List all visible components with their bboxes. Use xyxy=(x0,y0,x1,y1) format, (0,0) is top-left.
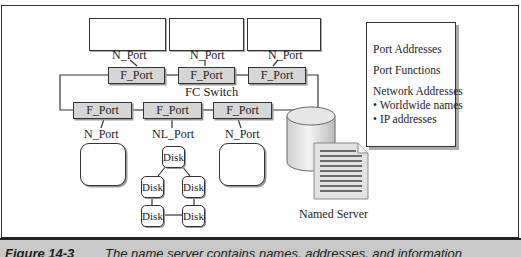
disk-top: Disk xyxy=(162,146,185,168)
f-port-bottom-2: F_Port xyxy=(143,102,202,119)
info-port-functions: Port Functions xyxy=(373,64,440,76)
bullet-ip-addresses: • IP addresses xyxy=(373,113,437,125)
bullet-icon: • xyxy=(373,99,380,111)
f-port-bottom-1: F_Port xyxy=(73,102,132,119)
info-box: Port Addresses Port Functions Network Ad… xyxy=(366,22,456,147)
n-port-label-top-1: N_Port xyxy=(112,48,147,63)
n-port-label-top-2: N_Port xyxy=(190,48,225,63)
info-port-addresses: Port Addresses xyxy=(373,43,442,55)
named-server-label: Named Server xyxy=(299,207,368,222)
nl-port-label: NL_Port xyxy=(152,127,194,142)
bullet-worldwide-names: • Worldwide names xyxy=(373,99,463,111)
disk-bottom-right: Disk xyxy=(182,205,205,227)
info-network-addresses: Network Addresses xyxy=(373,85,463,97)
n-port-label-top-3: N_Port xyxy=(268,48,303,63)
f-port-bottom-3: F_Port xyxy=(213,102,272,119)
disk-mid-left: Disk xyxy=(141,176,164,198)
figure-number: Figure 14-3 xyxy=(5,245,74,257)
fc-switch-label: FC Switch xyxy=(185,85,238,100)
f-port-top-3: F_Port xyxy=(248,67,306,84)
host-node-2 xyxy=(169,18,244,51)
bullet-text: IP addresses xyxy=(380,113,437,125)
figure-caption: Figure 14-3 The name server contains nam… xyxy=(0,238,521,257)
node-device-3 xyxy=(219,143,265,186)
f-port-top-1: F_Port xyxy=(108,67,165,84)
n-port-label-bottom-1: N_Port xyxy=(84,127,119,142)
disk-bottom-left: Disk xyxy=(141,205,164,227)
host-node-1 xyxy=(89,18,166,51)
disk-mid-right: Disk xyxy=(182,176,205,198)
bullet-text: Worldwide names xyxy=(380,99,463,111)
f-port-top-2: F_Port xyxy=(178,67,235,84)
caption-text: The name server contains names, addresse… xyxy=(105,245,462,257)
node-device-1 xyxy=(80,143,126,186)
host-node-3 xyxy=(247,18,321,51)
bullet-icon: • xyxy=(373,113,380,125)
document-icon xyxy=(312,141,372,203)
n-port-label-bottom-3: N_Port xyxy=(225,127,260,142)
